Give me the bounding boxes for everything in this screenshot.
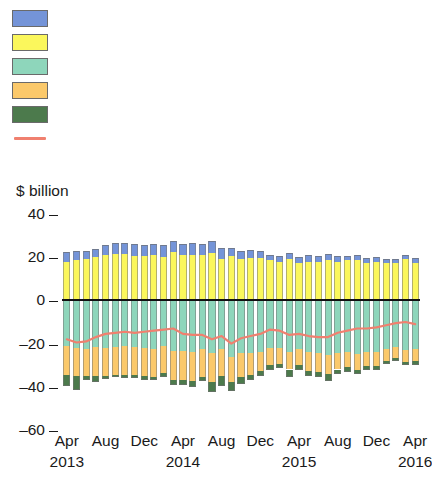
bar-segment — [247, 375, 254, 380]
y-tick-label: 20 — [28, 248, 58, 266]
legend-color-swatch — [12, 106, 48, 123]
bar-segment — [373, 352, 380, 366]
legend-item — [12, 54, 61, 78]
bar-segment — [344, 300, 351, 352]
bar-segment — [334, 353, 341, 369]
zero-axis-line — [62, 299, 420, 301]
bar-segment — [112, 300, 119, 346]
stacked-bar-negative — [199, 300, 206, 381]
bar-segment — [305, 371, 312, 376]
plot-area — [62, 214, 420, 430]
bar-segment — [131, 375, 138, 378]
stacked-bar-negative — [141, 300, 148, 380]
stacked-bar-negative — [325, 300, 332, 381]
bar-segment — [315, 372, 322, 377]
bar-segment — [228, 357, 235, 383]
stacked-bar-negative — [121, 300, 128, 378]
bar-segment — [160, 373, 167, 377]
bar-segment — [334, 300, 341, 353]
stacked-bar-negative — [102, 300, 109, 379]
chart-legend — [12, 6, 61, 150]
x-tick-month: Dec — [247, 432, 275, 450]
bar-segment — [150, 300, 157, 349]
bar-segment — [266, 365, 273, 369]
legend-color-swatch — [12, 82, 48, 99]
legend-item — [12, 30, 61, 54]
bar-segment — [402, 362, 409, 365]
bar-segment — [141, 348, 148, 376]
bar-segment — [354, 370, 361, 374]
bar-segment — [392, 300, 399, 346]
bar-segment — [266, 348, 273, 365]
bar-segment — [286, 300, 293, 352]
bar-segment — [73, 300, 80, 348]
bar-segment — [218, 376, 225, 386]
x-tick-month: Apr — [55, 432, 79, 450]
bar-segment — [92, 376, 99, 382]
bar-segment — [199, 300, 206, 349]
bar-segment — [247, 353, 254, 375]
bar-segment — [402, 300, 409, 350]
stacked-bar-negative — [189, 300, 196, 386]
bar-segment — [102, 300, 109, 348]
bar-segment — [218, 349, 225, 376]
bar-segment — [392, 358, 399, 361]
bar-segment — [305, 352, 312, 370]
bar-segment — [412, 361, 419, 365]
bar-segment — [247, 300, 254, 353]
bar-segment — [402, 350, 409, 362]
y-axis-ticks: 40200–20–40–60 — [0, 214, 58, 430]
bar-segment — [276, 300, 283, 348]
bar-segment — [160, 300, 167, 345]
stacked-bar-negative — [305, 300, 312, 376]
stacked-bar-negative — [92, 300, 99, 382]
stacked-bar-negative — [257, 300, 264, 376]
bar-segment — [160, 346, 167, 373]
bar-segment — [208, 382, 215, 392]
bar-segment — [383, 349, 390, 361]
bar-segment — [228, 382, 235, 391]
x-tick-month: Dec — [130, 432, 158, 450]
x-tick-month: Dec — [363, 432, 391, 450]
legend-item — [12, 102, 61, 126]
stacked-bar-negative — [295, 300, 302, 369]
bar-segment — [179, 351, 186, 380]
stacked-bar-negative — [237, 300, 244, 383]
stacked-bar-negative — [131, 300, 138, 378]
stacked-bar-negative — [208, 300, 215, 392]
bar-segment — [363, 352, 370, 366]
stacked-bar-negative — [160, 300, 167, 377]
bar-segment — [170, 300, 177, 351]
x-tick-month: Apr — [403, 432, 427, 450]
bar-segment — [295, 300, 302, 349]
x-tick-month: Aug — [92, 432, 120, 450]
stacked-bar-negative — [334, 300, 341, 373]
bar-segment — [150, 377, 157, 380]
bar-segment — [63, 346, 70, 375]
bar-segment — [170, 351, 177, 380]
stacked-bar-negative — [373, 300, 380, 369]
bar-segment — [199, 349, 206, 377]
bar-segment — [141, 376, 148, 380]
bar-segment — [179, 300, 186, 351]
stacked-bar-negative — [63, 300, 70, 385]
stacked-bar-negative — [73, 300, 80, 390]
bar-segment — [325, 300, 332, 355]
bar-segment — [286, 352, 293, 369]
x-tick-month: Apr — [287, 432, 311, 450]
bar-segment — [344, 352, 351, 367]
bar-segment — [295, 365, 302, 369]
bar-segment — [121, 346, 128, 375]
x-tick-year: 2016 — [398, 453, 432, 471]
bar-segment — [305, 300, 312, 352]
stacked-bar-negative — [392, 300, 399, 360]
bar-segment — [257, 371, 264, 376]
bar-segment — [363, 366, 370, 369]
bar-segment — [189, 352, 196, 381]
bar-segment — [412, 349, 419, 361]
bar-segment — [150, 349, 157, 377]
legend-color-swatch — [12, 58, 48, 75]
stacked-bar-negative — [363, 300, 370, 369]
bar-segment — [334, 370, 341, 374]
stacked-bar-negative — [354, 300, 361, 373]
